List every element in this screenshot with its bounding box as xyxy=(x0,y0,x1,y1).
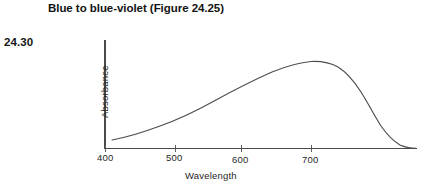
worksheet-page: 24.30 Blue to blue-violet (Figure 24.25)… xyxy=(0,0,428,191)
x-axis-title: Wavelength xyxy=(185,170,237,181)
x-tick-label-400: 400 xyxy=(97,152,113,163)
x-tick-label-700: 700 xyxy=(302,154,318,165)
chart-canvas xyxy=(0,0,428,191)
y-axis-title: Absorbance xyxy=(99,65,110,118)
x-tick-label-500: 500 xyxy=(166,152,182,163)
absorbance-spectrum-figure: Absorbance 400 500 600 700 Wavelength xyxy=(0,0,428,191)
x-tick-label-600: 600 xyxy=(232,154,248,165)
absorbance-curve xyxy=(112,61,416,148)
